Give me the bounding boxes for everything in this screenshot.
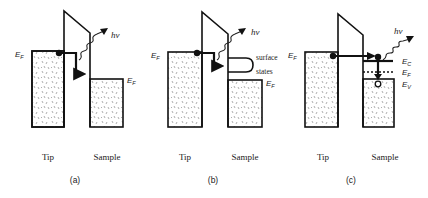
photon-label-a: hν bbox=[111, 30, 120, 40]
tip-label-c: Tip bbox=[317, 152, 330, 162]
caption-c: (c) bbox=[346, 175, 356, 185]
caption-a: (a) bbox=[70, 175, 81, 185]
sample-label-b: Sample bbox=[232, 152, 259, 162]
tunneling-arrowhead-c bbox=[367, 52, 376, 60]
panel-c: hν EF EC EF EV Tip Sample (c) bbox=[288, 14, 414, 185]
tip-band-b bbox=[168, 52, 202, 127]
tip-fermi-label-a: EF bbox=[15, 50, 24, 60]
surface-states-loop-b bbox=[228, 58, 253, 72]
hole-icon-c bbox=[375, 81, 381, 87]
surface-states-label-1: surface bbox=[256, 53, 278, 62]
photon-label-c: hν bbox=[394, 26, 403, 36]
sample-label-c: Sample bbox=[372, 152, 399, 162]
ec-label-c: EC bbox=[402, 57, 411, 67]
photon-arrowhead-a bbox=[100, 28, 108, 35]
sample-band-a bbox=[90, 79, 123, 127]
panel-b: hν surface states EF EF Tip Sample (b) bbox=[151, 12, 278, 185]
photon-wave-b bbox=[217, 31, 242, 60]
ef-label-c: EF bbox=[402, 68, 411, 78]
stm-luminescence-diagram: hν EF EF Tip Sample (a) hν surface state… bbox=[0, 0, 428, 198]
tunnel-barrier-b bbox=[202, 12, 228, 127]
sample-fermi-label-b: EF bbox=[266, 79, 275, 89]
panel-a: hν EF EF Tip Sample (a) bbox=[15, 11, 136, 185]
photon-arrowhead-b bbox=[238, 28, 246, 35]
caption-b: (b) bbox=[208, 175, 219, 185]
tip-label-a: Tip bbox=[42, 152, 55, 162]
injected-electron-icon-c bbox=[375, 54, 381, 60]
photon-wave-a bbox=[79, 31, 104, 60]
sample-band-b bbox=[228, 80, 262, 127]
tip-fermi-label-b: EF bbox=[151, 51, 160, 61]
photon-label-b: hν bbox=[251, 27, 260, 37]
sample-label-a: Sample bbox=[94, 152, 121, 162]
sample-fermi-label-a: EF bbox=[127, 76, 136, 86]
ev-label-c: EV bbox=[402, 80, 412, 90]
surface-states-label-2: states bbox=[256, 67, 273, 76]
tunnel-barrier-c bbox=[338, 14, 363, 127]
tip-band-c bbox=[305, 52, 338, 127]
tip-fermi-label-c: EF bbox=[288, 51, 297, 61]
tip-label-b: Tip bbox=[179, 152, 192, 162]
